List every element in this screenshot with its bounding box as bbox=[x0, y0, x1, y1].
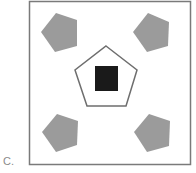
bottom-left-pentagon-icon bbox=[42, 114, 78, 152]
top-right-pentagon-icon bbox=[133, 13, 169, 52]
bottom-right-pentagon-icon bbox=[134, 114, 170, 152]
center-black-square-icon bbox=[95, 66, 118, 91]
top-left-pentagon-icon bbox=[41, 13, 77, 52]
puzzle-figure bbox=[0, 0, 196, 173]
